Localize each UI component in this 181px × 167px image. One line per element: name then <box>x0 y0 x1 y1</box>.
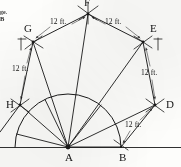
radial-A-D <box>68 105 155 147</box>
dot-A <box>66 145 71 150</box>
vertex-label-A: A <box>65 152 73 163</box>
leader-D-B-top <box>140 109 152 120</box>
vertex-label-E: E <box>150 23 157 34</box>
vertex-label-B: B <box>119 152 127 163</box>
vertex-label-H: H <box>6 99 14 110</box>
margin-text-letter: B <box>0 16 4 23</box>
leader-F-E-right <box>126 27 140 38</box>
dot-F <box>87 13 90 16</box>
vertex-label-D: D <box>166 99 174 110</box>
leader-F-G-left <box>36 27 50 38</box>
dimension-label-FG: 12 ft. <box>50 18 66 26</box>
dot-B <box>120 146 122 148</box>
dot-D <box>154 104 157 107</box>
dimension-label-DB: 12 ft. <box>125 121 141 129</box>
radial-A-F <box>68 14 88 147</box>
dimension-label-FE: 12 ft. <box>105 18 121 26</box>
leader-G-H-bottom <box>21 76 25 99</box>
dot-G <box>32 41 35 44</box>
radial-A-E <box>68 42 143 147</box>
vertex-label-F: F <box>84 0 90 8</box>
semicircle-arc <box>15 94 121 147</box>
dot-E <box>142 41 145 44</box>
geometry-figure: ge. B F G E H D A B 12 ft. 12 ft. 12 ft.… <box>0 0 181 167</box>
radial-A-arc-2 <box>45 100 68 148</box>
dot-H <box>19 104 22 107</box>
vertex-label-G: G <box>24 23 32 34</box>
dimension-label-ED: 12 ft. <box>141 69 157 77</box>
leader-F-G-right <box>72 17 85 24</box>
dimension-label-GH: 12 ft. <box>12 65 28 73</box>
edge-H-G <box>20 42 33 105</box>
